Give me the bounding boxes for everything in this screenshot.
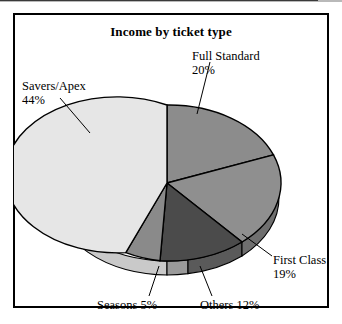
slice-label-seasons: Seasons 5% <box>97 299 157 313</box>
page-edge-rule <box>0 0 342 2</box>
pie-side-seasons <box>167 260 188 275</box>
slice-label-first-class-pct: 19% <box>273 268 326 282</box>
slice-label-first-class-name: First Class <box>273 253 326 267</box>
slice-label-savers-apex-pct: 44% <box>22 94 86 108</box>
slice-label-full-standard: Full Standard 20% <box>192 50 260 77</box>
slice-label-first-class: First Class 19% <box>273 254 326 281</box>
slice-label-full-standard-pct: 20% <box>192 64 260 78</box>
slice-label-savers-apex-name: Savers/Apex <box>22 79 86 93</box>
chart-frame: Income by ticket type Full Standard 20% <box>13 13 329 308</box>
slice-label-full-standard-name: Full Standard <box>192 49 260 63</box>
slice-label-savers-apex: Savers/Apex 44% <box>22 80 86 107</box>
slice-label-others: Others 12% <box>200 299 259 313</box>
